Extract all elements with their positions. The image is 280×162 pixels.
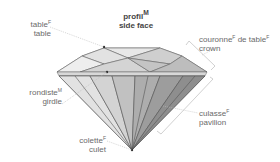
label-culet: coletteF culet [70, 136, 106, 154]
label-crown-fr2: de table [235, 35, 266, 44]
title-en: side face [119, 21, 153, 30]
label-crown-fr: couronne [199, 35, 232, 44]
label-pavilion-fr: culasse [199, 109, 226, 118]
gender-mark: M [58, 87, 62, 93]
label-girdle-en: girdle [42, 97, 62, 106]
label-table-en: table [34, 29, 51, 38]
label-culet-fr: colette [79, 136, 103, 145]
gender-mark: F [226, 108, 229, 114]
title-fr: profil [123, 12, 143, 21]
diagram-title: profilM side face [106, 8, 166, 30]
gender-mark: M [143, 9, 149, 16]
label-pavilion-en: pavilion [199, 118, 226, 127]
label-table: tableF table [20, 20, 51, 38]
label-girdle-fr: rondiste [29, 88, 57, 97]
label-culet-en: culet [89, 145, 106, 154]
gender-mark: F [48, 19, 51, 25]
diamond-girdle [57, 72, 207, 76]
gender-mark: F [266, 34, 269, 40]
label-table-fr: table [31, 20, 48, 29]
label-crown-en: crown [199, 44, 220, 53]
label-crown: couronneF de tableF crown [199, 35, 279, 53]
gender-mark: F [103, 135, 106, 141]
diamond-crown [57, 48, 207, 72]
label-girdle: rondisteM girdle [10, 88, 62, 106]
label-pavilion: culasseF pavilion [199, 109, 259, 127]
